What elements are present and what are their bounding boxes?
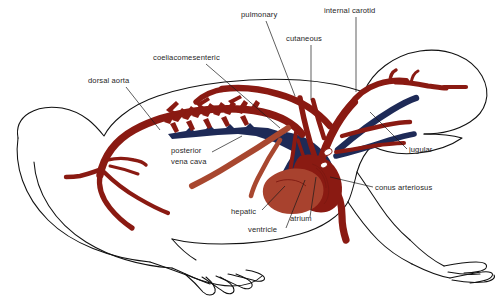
label-jugular: jugular <box>408 145 433 154</box>
systemic-arch-descending <box>196 89 224 102</box>
frog-circulatory-diagram: pulmonary internal carotid cutaneous coe… <box>0 0 503 298</box>
iliac-branches <box>66 159 168 229</box>
label-posterior-vena-cava-line2: vena cava <box>171 157 207 166</box>
label-atrium: atrium <box>290 214 312 223</box>
label-posterior-vena-cava-line1: posterior <box>171 146 202 155</box>
label-internal-carotid: internal carotid <box>324 6 375 15</box>
ventricle-chamber <box>263 169 324 214</box>
diagram-canvas: pulmonary internal carotid cutaneous coe… <box>0 0 503 298</box>
leader-pulmonary <box>266 21 295 96</box>
arterial-system <box>66 70 466 240</box>
leader-posterior-vena-cava <box>212 136 242 152</box>
label-cutaneous: cutaneous <box>286 34 322 43</box>
label-coeliacomesenteric: coeliacomesenteric <box>153 53 220 62</box>
label-hepatic: hepatic <box>231 207 256 216</box>
label-conus-arteriosus: conus arteriosus <box>375 183 432 192</box>
label-dorsal-aorta: dorsal aorta <box>88 76 130 85</box>
label-pulmonary: pulmonary <box>241 10 277 19</box>
internal-carotid-anterior <box>396 82 446 88</box>
label-ventricle: ventricle <box>248 225 277 234</box>
